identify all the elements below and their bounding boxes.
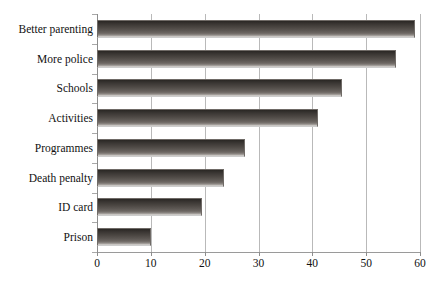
category-label: Activities: [0, 112, 93, 124]
x-tick-mark-40: [312, 252, 313, 256]
category-label: Prison: [0, 231, 93, 243]
bar-chart: 0102030405060Better parentingMore police…: [0, 0, 440, 287]
x-tick-label: 0: [77, 257, 117, 270]
y-tick-mark: [92, 133, 97, 134]
y-tick-mark: [92, 163, 97, 164]
bar-death-penalty: [97, 169, 224, 187]
x-tick-mark-60: [420, 252, 421, 256]
bar-prison: [97, 228, 151, 246]
bar-row: [97, 198, 202, 216]
x-tick-label: 40: [292, 257, 332, 270]
y-tick-mark: [92, 14, 97, 15]
bar-id-card: [97, 198, 202, 216]
x-tick-mark-20: [205, 252, 206, 256]
bar-row: [97, 109, 318, 127]
category-label: More police: [0, 53, 93, 65]
x-tick-label: 50: [346, 257, 386, 270]
bar-more-police: [97, 50, 396, 68]
bar-schools: [97, 79, 342, 97]
y-tick-mark: [92, 74, 97, 75]
y-tick-mark: [92, 193, 97, 194]
y-tick-mark: [92, 252, 97, 253]
bar-row: [97, 139, 245, 157]
bar-row: [97, 169, 224, 187]
bar-activities: [97, 109, 318, 127]
category-label: Better parenting: [0, 23, 93, 35]
x-tick-mark-0: [97, 252, 98, 256]
bar-row: [97, 228, 151, 246]
x-tick-label: 60: [400, 257, 440, 270]
bar-row: [97, 20, 415, 38]
category-label: Death penalty: [0, 172, 93, 184]
x-tick-label: 30: [239, 257, 279, 270]
y-tick-mark: [92, 44, 97, 45]
bar-programmes: [97, 139, 245, 157]
gridline-60: [420, 14, 421, 252]
bar-better-parenting: [97, 20, 415, 38]
category-label: ID card: [0, 201, 93, 213]
y-tick-mark: [92, 103, 97, 104]
category-label: Schools: [0, 82, 93, 94]
x-tick-mark-10: [151, 252, 152, 256]
category-label: Programmes: [0, 142, 93, 154]
y-tick-mark: [92, 222, 97, 223]
x-tick-mark-30: [259, 252, 260, 256]
bar-row: [97, 79, 342, 97]
x-tick-label: 10: [131, 257, 171, 270]
x-tick-mark-50: [366, 252, 367, 256]
bar-row: [97, 50, 396, 68]
x-tick-label: 20: [185, 257, 225, 270]
